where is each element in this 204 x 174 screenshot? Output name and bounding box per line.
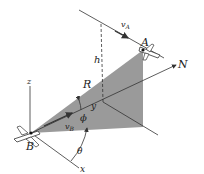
label-a: A xyxy=(140,36,149,49)
label-b: B xyxy=(25,140,34,153)
velocity-a-arrow xyxy=(115,31,128,38)
label-r: R xyxy=(82,78,91,91)
label-h: h xyxy=(94,54,100,65)
x-axis xyxy=(31,133,79,168)
label-phi: ϕ xyxy=(80,112,87,123)
label-n: N xyxy=(177,58,188,71)
label-velocity-a: vA xyxy=(121,20,131,30)
label-z: z xyxy=(26,77,32,86)
label-theta: θ xyxy=(77,146,83,156)
label-x: x xyxy=(80,164,85,174)
relative-motion-diagram: A B N R h z x y vA vB ϕ θ xyxy=(0,0,204,174)
label-y: y xyxy=(90,101,97,111)
theta-angle-arc xyxy=(71,128,87,161)
shaded-plane xyxy=(31,50,143,133)
